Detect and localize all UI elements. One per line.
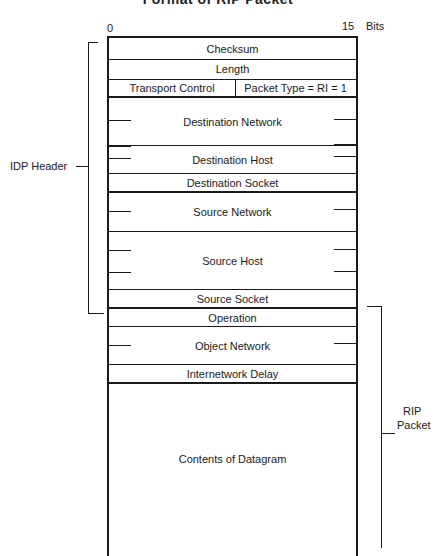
word-tick [109, 250, 131, 251]
idp-header-bracket-top [88, 42, 98, 43]
diagram-title: Format of RIP Packet [0, 0, 436, 7]
field-label: Length [216, 63, 250, 75]
idp-header-bracket-bottom [88, 313, 104, 314]
field-transport-control: Transport Control [109, 82, 235, 94]
field-source-host: Source Host [109, 232, 356, 289]
bit-unit-label: Bits [366, 20, 384, 32]
field-label: Contents of Datagram [179, 453, 287, 465]
rip-packet-label-line2: Packet [397, 419, 431, 431]
field-label: Source Network [193, 206, 271, 218]
word-tick [109, 345, 131, 346]
field-label: Destination Host [192, 154, 273, 166]
idp-header-bracket [88, 42, 89, 314]
bit-start-label: 0 [107, 22, 113, 34]
field-transport-packet-type: Transport Control Packet Type = RI = 1 [109, 79, 356, 97]
field-source-network: Source Network [109, 193, 356, 231]
word-tick [109, 272, 131, 273]
field-label: Checksum [207, 43, 259, 55]
field-checksum: Checksum [109, 38, 356, 59]
word-tick [334, 271, 356, 272]
word-tick [334, 119, 356, 120]
rip-packet-bracket [381, 306, 382, 548]
idp-header-label: IDP Header [10, 160, 67, 172]
field-packet-type: Packet Type = RI = 1 [235, 82, 356, 94]
word-tick [109, 120, 131, 121]
field-operation: Operation [109, 309, 356, 326]
field-destination-network: Destination Network [109, 98, 356, 145]
word-tick [334, 209, 356, 210]
word-tick [109, 158, 131, 159]
field-split-divider [235, 79, 236, 97]
rip-packet-bracket-top [367, 306, 381, 307]
rip-packet-label-line1: RIP [403, 405, 421, 417]
field-contents-of-datagram: Contents of Datagram [109, 384, 356, 534]
word-tick [334, 144, 356, 145]
field-label: Destination Socket [187, 177, 279, 189]
field-label: Internetwork Delay [187, 368, 279, 380]
field-destination-socket: Destination Socket [109, 174, 356, 191]
field-label: Source Socket [197, 293, 269, 305]
word-tick [334, 249, 356, 250]
field-label: Destination Network [183, 116, 281, 128]
word-tick [334, 343, 356, 344]
word-tick [109, 211, 131, 212]
word-tick [334, 156, 356, 157]
field-label: Source Host [202, 255, 263, 267]
field-object-network: Object Network [109, 327, 356, 364]
field-label: Object Network [195, 340, 270, 352]
field-internetwork-delay: Internetwork Delay [109, 365, 356, 382]
idp-header-bracket-tick [76, 166, 88, 167]
word-tick [109, 146, 131, 147]
bit-end-label: 15 [342, 20, 354, 32]
field-length: Length [109, 59, 356, 79]
field-label: Operation [208, 312, 256, 324]
field-source-socket: Source Socket [109, 290, 356, 307]
field-destination-host: Destination Host [109, 146, 356, 173]
packet-format-box: Checksum Length Transport Control Packet… [107, 36, 358, 556]
rip-packet-bracket-tick [381, 433, 395, 434]
